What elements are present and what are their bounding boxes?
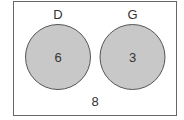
set-d-label: D <box>53 7 62 22</box>
set-g-label: G <box>127 7 137 22</box>
set-d-value: 6 <box>54 50 61 65</box>
outside-value: 8 <box>91 94 98 109</box>
venn-diagram: D G 6 3 8 <box>0 0 184 120</box>
set-g-value: 3 <box>129 50 136 65</box>
